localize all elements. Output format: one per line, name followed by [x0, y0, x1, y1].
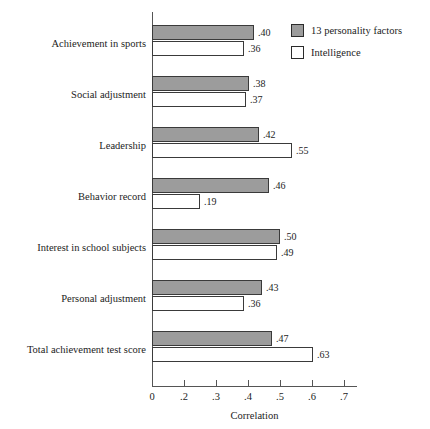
category-group: Interest in school subjects.50.49 [0, 226, 430, 272]
bar-value-label: .55 [296, 144, 309, 157]
category-label: Behavior record [0, 190, 146, 203]
category-label: Personal adjustment [0, 292, 146, 305]
bar-row: .42 [152, 127, 412, 142]
bar-personality-factors [152, 331, 272, 346]
category-group: Behavior record.46.19 [0, 175, 430, 221]
bar-personality-factors [152, 229, 280, 244]
x-axis-tick [248, 380, 249, 386]
bar-intelligence [152, 143, 292, 158]
x-axis-tick-label: .3 [203, 390, 229, 403]
bar-value-label: .47 [276, 332, 289, 345]
x-axis-tick [184, 380, 185, 386]
x-axis-tick-label: 0 [139, 390, 165, 403]
bar-row: .46 [152, 178, 412, 193]
x-axis-title: Correlation [152, 409, 357, 422]
bar-row: .49 [152, 245, 412, 260]
bar-personality-factors [152, 178, 269, 193]
category-label: Social adjustment [0, 88, 146, 101]
bar-intelligence [152, 194, 200, 209]
value-axis-line [152, 386, 357, 387]
bar-value-label: .50 [284, 230, 297, 243]
x-axis-tick-label: .4 [235, 390, 261, 403]
bar-value-label: .38 [253, 77, 266, 90]
x-axis-tick [216, 380, 217, 386]
category-group: Personal adjustment.43.36 [0, 277, 430, 323]
bar-row: .36 [152, 41, 412, 56]
correlation-bar-chart: 13 personality factors Intelligence Achi… [0, 0, 430, 429]
bar-row: .43 [152, 280, 412, 295]
x-axis-tick-label: .2 [171, 390, 197, 403]
bar-intelligence [152, 245, 277, 260]
bar-personality-factors [152, 76, 249, 91]
x-axis-tick [312, 380, 313, 386]
x-axis-tick-label: .7 [331, 390, 357, 403]
bar-personality-factors [152, 25, 254, 40]
bar-value-label: .63 [317, 348, 330, 361]
bar-intelligence [152, 92, 246, 107]
bar-value-label: .36 [248, 297, 261, 310]
bar-row: .36 [152, 296, 412, 311]
bar-row: .37 [152, 92, 412, 107]
category-group: Total achievement test score.47.63 [0, 328, 430, 374]
category-group: Leadership.42.55 [0, 124, 430, 170]
bar-value-label: .49 [281, 246, 294, 259]
plot-area: Achievement in sports.40.36Social adjust… [0, 0, 430, 429]
bar-intelligence [152, 296, 244, 311]
category-label: Leadership [0, 139, 146, 152]
x-axis-tick [280, 380, 281, 386]
bar-row: .55 [152, 143, 412, 158]
bar-value-label: .43 [266, 281, 279, 294]
x-axis-tick-label: .6 [299, 390, 325, 403]
category-label: Interest in school subjects [0, 241, 146, 254]
x-axis-tick-label: .5 [267, 390, 293, 403]
bar-personality-factors [152, 127, 259, 142]
category-group: Social adjustment.38.37 [0, 73, 430, 119]
category-label: Total achievement test score [0, 343, 146, 356]
bar-row: .19 [152, 194, 412, 209]
bar-value-label: .37 [250, 93, 263, 106]
bar-row: .50 [152, 229, 412, 244]
bar-value-label: .19 [204, 195, 217, 208]
bar-row: .47 [152, 331, 412, 346]
bar-value-label: .40 [258, 26, 271, 39]
bar-row: .38 [152, 76, 412, 91]
x-axis-tick [344, 380, 345, 386]
bar-value-label: .42 [263, 128, 276, 141]
bar-personality-factors [152, 280, 262, 295]
bar-row: .40 [152, 25, 412, 40]
bar-value-label: .36 [248, 42, 261, 55]
category-label: Achievement in sports [0, 37, 146, 50]
bar-intelligence [152, 41, 244, 56]
bar-value-label: .46 [273, 179, 286, 192]
bar-intelligence [152, 347, 313, 362]
category-group: Achievement in sports.40.36 [0, 22, 430, 68]
bar-row: .63 [152, 347, 412, 362]
